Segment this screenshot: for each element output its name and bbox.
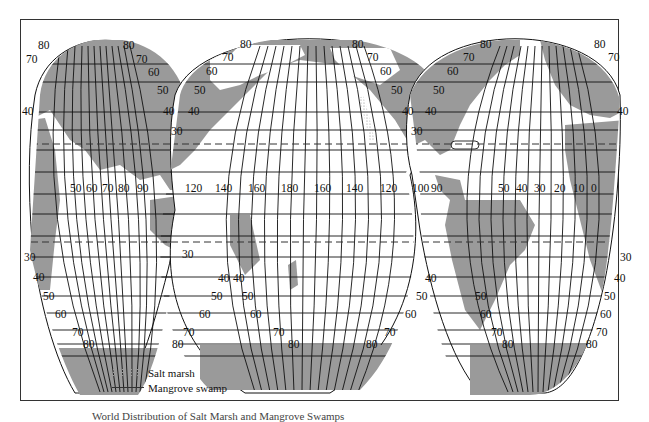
lat-label: 80 xyxy=(123,39,135,51)
lat-label: 80 xyxy=(586,338,598,350)
lat-label: 50 xyxy=(43,290,55,302)
lat-label: 70 xyxy=(463,51,475,63)
lon-label: 90 xyxy=(431,182,443,194)
lat-label: 80 xyxy=(288,338,300,350)
lat-label: 50 xyxy=(194,84,206,96)
lat-label: 40 xyxy=(617,105,629,117)
lat-label: 50 xyxy=(211,290,223,302)
lon-label: 120 xyxy=(185,182,203,194)
stipple-swatch-icon xyxy=(112,368,144,377)
lat-label: 40 xyxy=(233,272,245,284)
lon-label: 180 xyxy=(281,182,299,194)
lon-label: 80 xyxy=(118,182,130,194)
lat-label: 30 xyxy=(171,125,183,137)
lat-label: 70 xyxy=(367,51,379,63)
lat-label: 40 xyxy=(188,105,200,117)
lat-label: 40 xyxy=(218,272,230,284)
lat-label: 60 xyxy=(55,308,67,320)
legend-label: Salt marsh xyxy=(148,367,195,379)
lat-label: 70 xyxy=(273,326,285,338)
lat-label: 80 xyxy=(352,38,364,50)
lat-label: 80 xyxy=(38,39,50,51)
lon-label: 160 xyxy=(314,182,332,194)
lat-label: 30 xyxy=(182,248,194,260)
legend-label: Mangrove swamp xyxy=(148,382,227,394)
lat-label: 80 xyxy=(240,38,252,50)
map-legend: Salt marsh Mangrove swamp xyxy=(112,365,227,395)
lat-label: 40 xyxy=(402,105,414,117)
lat-label: 80 xyxy=(83,338,95,350)
lat-label: 40 xyxy=(33,271,45,283)
lat-label: 30 xyxy=(411,125,423,137)
lat-label: 60 xyxy=(206,65,218,77)
lat-label: 70 xyxy=(596,326,608,338)
lat-label: 70 xyxy=(136,53,148,65)
lat-label: 30 xyxy=(24,251,36,263)
figure-caption: World Distribution of Salt Marsh and Man… xyxy=(92,410,344,422)
lat-label: 60 xyxy=(480,308,492,320)
lat-label: 70 xyxy=(26,53,38,65)
lat-label: 60 xyxy=(380,65,392,77)
lat-label: 60 xyxy=(600,308,612,320)
lon-label: 50 xyxy=(70,182,82,194)
lat-label: 40 xyxy=(22,105,34,117)
lon-label: 140 xyxy=(215,182,233,194)
lat-label: 40 xyxy=(425,105,437,117)
lat-label: 60 xyxy=(199,308,211,320)
lat-label: 50 xyxy=(475,290,487,302)
lon-label: 120 xyxy=(380,182,398,194)
lat-label: 70 xyxy=(72,326,84,338)
lon-label: 30 xyxy=(534,182,546,194)
lat-label: 50 xyxy=(242,290,254,302)
lon-label: 40 xyxy=(516,182,528,194)
lon-label: 60 xyxy=(86,182,98,194)
lat-label: 80 xyxy=(502,338,514,350)
lat-label: 80 xyxy=(172,338,184,350)
lon-label: 140 xyxy=(346,182,364,194)
lat-label: 80 xyxy=(366,338,378,350)
lon-label: 20 xyxy=(554,182,566,194)
lat-label: 70 xyxy=(222,51,234,63)
lat-label: 40 xyxy=(163,105,175,117)
lat-label: 60 xyxy=(148,66,160,78)
lon-label: 70 xyxy=(102,182,114,194)
lon-label: 50 xyxy=(498,182,510,194)
lon-label: 100 xyxy=(412,182,430,194)
legend-item-salt-marsh: Salt marsh xyxy=(112,365,227,380)
lat-label: 70 xyxy=(608,51,620,63)
lat-label: 80 xyxy=(480,38,492,50)
lon-label: 160 xyxy=(248,182,266,194)
lat-label: 50 xyxy=(391,84,403,96)
lat-label: 40 xyxy=(425,272,437,284)
lon-label: 0 xyxy=(591,182,597,194)
lat-label: 50 xyxy=(157,84,169,96)
lat-label: 50 xyxy=(433,84,445,96)
lon-label: 90 xyxy=(137,182,149,194)
lat-label: 70 xyxy=(491,326,503,338)
lat-label: 60 xyxy=(250,308,262,320)
lat-label: 60 xyxy=(405,308,417,320)
lat-label: 70 xyxy=(183,326,195,338)
lat-label: 80 xyxy=(594,38,606,50)
lat-label: 50 xyxy=(416,290,428,302)
lon-label: 10 xyxy=(573,182,585,194)
line-swatch-icon xyxy=(112,387,144,388)
lat-label: 30 xyxy=(620,251,632,263)
lat-label: 50 xyxy=(604,290,616,302)
lat-label: 70 xyxy=(384,326,396,338)
legend-item-mangrove: Mangrove swamp xyxy=(112,380,227,395)
lat-label: 60 xyxy=(447,65,459,77)
lat-label: 40 xyxy=(614,272,626,284)
